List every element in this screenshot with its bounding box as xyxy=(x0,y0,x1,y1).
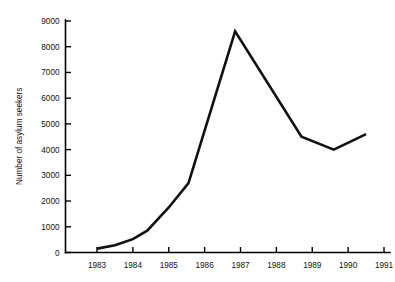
x-axis-tick-label: 1991 xyxy=(375,261,394,270)
x-axis-tick-label: 1989 xyxy=(303,261,322,270)
y-axis-tick-labels: 0100020003000400050006000700080009000 xyxy=(41,17,60,258)
y-axis-title: Number of asylum seekers xyxy=(15,88,24,185)
y-axis-tick-label: 9000 xyxy=(41,17,60,26)
x-axis-tick-label: 1988 xyxy=(267,261,286,270)
x-axis-tick-label: 1983 xyxy=(88,261,107,270)
y-axis-tick-label: 7000 xyxy=(41,68,60,77)
y-axis xyxy=(66,20,72,253)
x-axis-tick-label: 1985 xyxy=(160,261,179,270)
y-axis-tick-label: 4000 xyxy=(41,146,60,155)
asylum-seekers-line-chart: 0100020003000400050006000700080009000 19… xyxy=(0,0,395,282)
data-series-group xyxy=(97,31,366,248)
series-line-asylum-seekers xyxy=(97,31,366,248)
y-axis-tick-label: 1000 xyxy=(41,223,60,232)
chart-canvas: 0100020003000400050006000700080009000 19… xyxy=(0,0,395,282)
y-axis-tick-label: 5000 xyxy=(41,120,60,129)
x-axis-tick-label: 1990 xyxy=(339,261,358,270)
x-axis-tick-label: 1984 xyxy=(124,261,143,270)
x-axis-tick-label: 1987 xyxy=(231,261,250,270)
y-axis-tick-label: 6000 xyxy=(41,94,60,103)
x-axis xyxy=(66,247,391,253)
y-axis-tick-label: 2000 xyxy=(41,197,60,206)
x-axis-tick-label: 1986 xyxy=(196,261,215,270)
y-axis-tick-label: 8000 xyxy=(41,43,60,52)
y-axis-tick-label: 3000 xyxy=(41,171,60,180)
x-axis-tick-labels: 198319841985198619871988198919901991 xyxy=(88,261,394,270)
y-axis-tick-label: 0 xyxy=(55,249,60,258)
y-axis-title-text: Number of asylum seekers xyxy=(15,88,24,185)
